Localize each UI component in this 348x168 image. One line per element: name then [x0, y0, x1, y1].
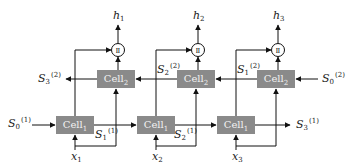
cell-sub: 2: [124, 79, 128, 87]
cell-sub: 1: [164, 125, 168, 133]
output-h2: h2: [193, 10, 205, 23]
cell-2-step-3: Cell2: [257, 70, 295, 88]
cell-label: Cell: [63, 119, 83, 130]
cell-2-step-1: Cell2: [97, 70, 135, 88]
cell-1-step-2: Cell1: [137, 116, 175, 134]
cell-2-step-2: Cell2: [177, 70, 215, 88]
state-s1-forward: S1(1): [95, 128, 118, 142]
output-h1: h1: [113, 10, 125, 23]
concat-symbol-3: Ⅱ: [276, 47, 281, 55]
cell-label: Cell: [264, 73, 284, 84]
cell-sub: 2: [284, 79, 288, 87]
state-s1-backward: S1(2): [237, 63, 260, 77]
state-s0-backward: S0(2): [322, 72, 345, 86]
state-s0-forward: S0(1): [8, 117, 31, 131]
input-x1: x1: [71, 151, 82, 164]
cell-label: Cell: [184, 73, 204, 84]
cell-label: Cell: [144, 119, 164, 130]
state-s2-forward: S2(1): [174, 128, 197, 142]
cell-1-step-3: Cell1: [217, 116, 255, 134]
state-s3-backward: S3(2): [38, 72, 61, 86]
cell-label: Cell: [104, 73, 124, 84]
concat-symbol-2: Ⅱ: [196, 47, 201, 55]
cell-1-step-1: Cell1: [56, 116, 94, 134]
cell-sub: 2: [204, 79, 208, 87]
cell-sub: 1: [244, 125, 248, 133]
state-s3-forward: S3(1): [296, 118, 319, 132]
cell-label: Cell: [224, 119, 244, 130]
input-x2: x2: [152, 151, 163, 164]
cell-sub: 1: [83, 125, 87, 133]
concat-symbol-1: Ⅱ: [116, 47, 121, 55]
state-s2-backward: S2(2): [157, 63, 180, 77]
input-x3: x3: [232, 151, 243, 164]
output-h3: h3: [273, 10, 285, 23]
